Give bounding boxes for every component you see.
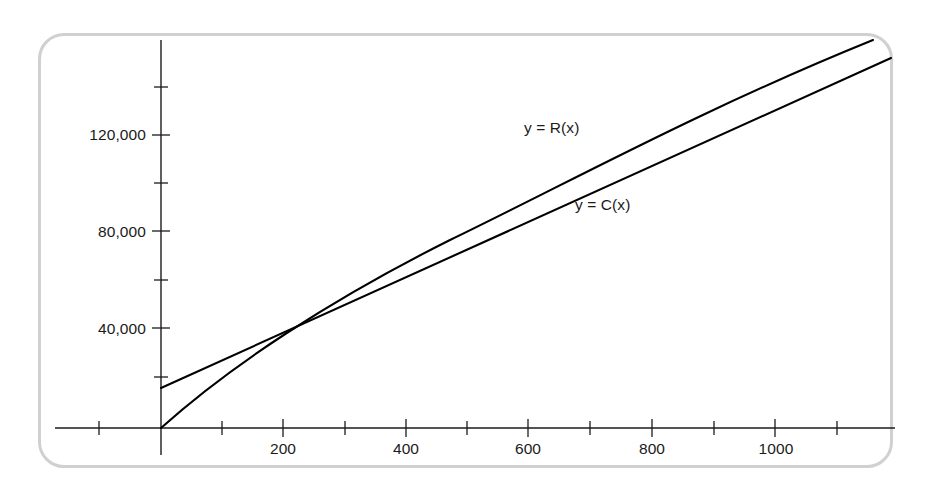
x-tick-label-600: 600 (498, 441, 558, 457)
curve-label-cost: y = C(x) (575, 197, 630, 213)
x-tick-label-400: 400 (376, 441, 436, 457)
curve-revenue (161, 40, 873, 428)
y-tick-label-80000: 80,000 (46, 224, 146, 240)
curve-label-revenue: y = R(x) (524, 120, 579, 136)
x-tick-label-200: 200 (253, 441, 313, 457)
chart-plot-area (0, 0, 930, 501)
x-tick-label-800: 800 (622, 441, 682, 457)
x-tick-label-1000: 1000 (741, 441, 811, 457)
y-tick-label-120000: 120,000 (46, 127, 146, 143)
curve-cost (161, 58, 891, 388)
y-tick-label-40000: 40,000 (46, 321, 146, 337)
